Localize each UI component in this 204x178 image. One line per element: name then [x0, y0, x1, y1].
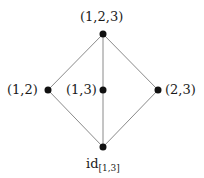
node-left — [45, 87, 52, 94]
label-middle: (1,3) — [66, 83, 97, 97]
node-right — [155, 87, 162, 94]
edge-top-right — [103, 34, 158, 90]
node-top — [100, 31, 107, 38]
label-bottom: id[1,3] — [86, 157, 120, 175]
edge-right-bottom — [103, 90, 158, 147]
node-middle — [100, 87, 107, 94]
edge-left-bottom — [48, 90, 103, 147]
label-bottom-main: id — [86, 156, 98, 171]
label-left: (1,2) — [7, 83, 38, 97]
label-right: (2,3) — [165, 83, 196, 97]
label-bottom-subscript: [1,3] — [98, 163, 119, 173]
node-bottom — [100, 144, 107, 151]
label-top: (1,2,3) — [80, 10, 123, 24]
